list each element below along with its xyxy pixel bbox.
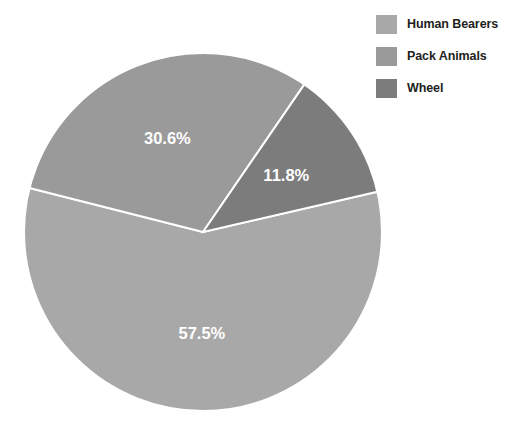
pie-svg: 57.5% 30.6% 11.8% — [18, 34, 388, 430]
slice-label-human-bearers: 57.5% — [179, 324, 226, 342]
slice-label-pack-animals: 30.6% — [144, 129, 191, 147]
legend-item-wheel[interactable]: Wheel — [376, 72, 512, 104]
legend-swatch-pack-animals — [376, 47, 397, 66]
legend-label-pack-animals: Pack Animals — [407, 49, 487, 63]
pie-plot-area: 57.5% 30.6% 11.8% — [18, 34, 388, 430]
chart-legend: Human Bearers Pack Animals Wheel — [376, 8, 512, 104]
legend-swatch-wheel — [376, 79, 397, 98]
legend-label-wheel: Wheel — [407, 81, 443, 95]
pie-chart-figure: 57.5% 30.6% 11.8% Human Bearers Pack Ani… — [0, 0, 512, 447]
legend-label-human-bearers: Human Bearers — [407, 17, 498, 31]
legend-item-pack-animals[interactable]: Pack Animals — [376, 40, 512, 72]
slice-label-wheel: 11.8% — [263, 166, 309, 184]
legend-item-human-bearers[interactable]: Human Bearers — [376, 8, 512, 40]
legend-swatch-human-bearers — [376, 15, 397, 34]
